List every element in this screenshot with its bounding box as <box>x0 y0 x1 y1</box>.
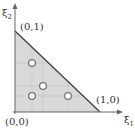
point-1 <box>29 60 36 67</box>
y-axis-arrow-icon <box>13 3 18 9</box>
y-axis-label: ξ2 <box>2 7 12 21</box>
vertex-label-0-0: (0,0) <box>5 116 29 127</box>
vertex-label-1-0: (1,0) <box>96 94 120 105</box>
reference-triangle-diagram: ξ2 ξ1 (0,1) (1,0) (0,0) <box>0 0 135 132</box>
x-axis-label: ξ1 <box>124 114 134 128</box>
vertex-label-0-1: (0,1) <box>20 21 44 32</box>
point-3 <box>29 93 36 100</box>
x-axis-arrow-icon <box>117 110 123 115</box>
point-2 <box>40 83 47 90</box>
point-4 <box>65 93 72 100</box>
